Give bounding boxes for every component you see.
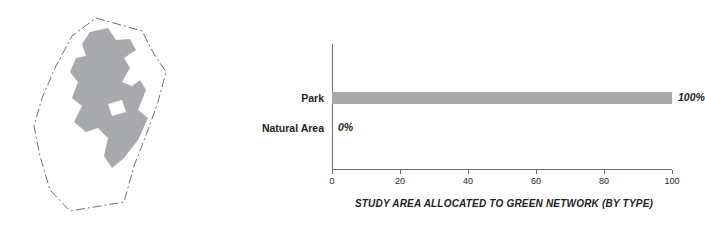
- bar-row-park: Park 100%: [332, 92, 672, 104]
- category-label-park: Park: [301, 92, 332, 104]
- x-tick-20: [400, 170, 401, 174]
- plot-area: Park 100% Natural Area 0% 0 20 40 60 80 …: [246, 30, 676, 180]
- x-tick-label-100: 100: [664, 176, 679, 186]
- x-tick-label-80: 80: [599, 176, 609, 186]
- category-label-natural-area: Natural Area: [262, 122, 332, 134]
- x-tick-label-0: 0: [329, 176, 334, 186]
- y-axis-line: [332, 44, 333, 169]
- x-tick-label-20: 20: [395, 176, 405, 186]
- x-axis-line: [332, 169, 672, 170]
- green-network-shape: [70, 28, 148, 168]
- chart-title: STUDY AREA ALLOCATED TO GREEN NETWORK (B…: [332, 198, 676, 209]
- bar-value-park: 100%: [678, 91, 705, 104]
- x-tick-label-40: 40: [463, 176, 473, 186]
- bar-park: [332, 92, 672, 104]
- bar-value-natural-area: 0%: [338, 121, 353, 134]
- x-tick-40: [468, 170, 469, 174]
- x-tick-label-60: 60: [531, 176, 541, 186]
- x-tick-0: [332, 170, 333, 174]
- bar-chart: Park 100% Natural Area 0% 0 20 40 60 80 …: [246, 30, 676, 220]
- x-tick-60: [536, 170, 537, 174]
- map-svg: [12, 6, 242, 222]
- x-tick-80: [604, 170, 605, 174]
- study-area-map: [12, 6, 242, 222]
- x-tick-100: [672, 170, 673, 174]
- bar-row-natural-area: Natural Area 0%: [332, 122, 672, 134]
